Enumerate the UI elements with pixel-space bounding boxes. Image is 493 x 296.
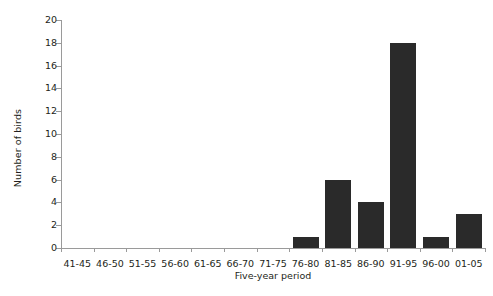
- x-tick-label: 96-00: [420, 258, 453, 270]
- bar: [358, 202, 384, 248]
- y-tick-label: 4: [51, 196, 57, 207]
- x-tick-mark: [289, 248, 290, 252]
- y-tick-label: 18: [45, 37, 57, 48]
- y-tick-label: 14: [45, 82, 57, 93]
- y-axis-line: [61, 20, 62, 248]
- y-tick-label: 2: [51, 219, 57, 230]
- x-tick-mark: [94, 248, 95, 252]
- y-tick-label: 16: [45, 60, 57, 71]
- x-axis-line: [61, 248, 485, 249]
- y-tick-label: 10: [45, 128, 57, 139]
- x-tick-mark: [322, 248, 323, 252]
- y-tick-label: 0: [51, 242, 57, 253]
- x-tick-label: 56-60: [159, 258, 192, 270]
- x-tick-mark: [420, 248, 421, 252]
- x-tick-mark: [452, 248, 453, 252]
- x-tick-label: 81-85: [322, 258, 355, 270]
- x-tick-mark: [485, 248, 486, 252]
- x-tick-mark: [224, 248, 225, 252]
- plot-area: 02468101214161820 41-4546-5051-5556-6061…: [61, 20, 485, 248]
- bar: [456, 214, 482, 248]
- x-tick-mark: [387, 248, 388, 252]
- bar-chart: Number of birds 02468101214161820 41-454…: [0, 0, 493, 296]
- x-tick-label: 41-45: [61, 258, 94, 270]
- y-tick-label: 8: [51, 151, 57, 162]
- x-tick-mark: [191, 248, 192, 252]
- x-tick-label: 76-80: [289, 258, 322, 270]
- x-tick-label: 71-75: [257, 258, 290, 270]
- x-tick-label: 51-55: [126, 258, 159, 270]
- x-tick-label: 66-70: [224, 258, 257, 270]
- x-tick-label: 91-95: [387, 258, 420, 270]
- bar: [293, 237, 319, 248]
- x-tick-label: 01-05: [452, 258, 485, 270]
- y-tick-label: 20: [45, 14, 57, 25]
- x-tick-label: 46-50: [94, 258, 127, 270]
- bar: [325, 180, 351, 248]
- x-tick-mark: [159, 248, 160, 252]
- x-tick-label: 86-90: [355, 258, 388, 270]
- x-tick-mark: [61, 248, 62, 252]
- x-tick-mark: [257, 248, 258, 252]
- y-axis-title: Number of birds: [8, 0, 26, 296]
- y-tick-label: 6: [51, 174, 57, 185]
- bar: [390, 43, 416, 248]
- x-tick-mark: [355, 248, 356, 252]
- x-axis-title: Five-year period: [61, 270, 485, 281]
- bar: [423, 237, 449, 248]
- y-tick-label: 12: [45, 105, 57, 116]
- x-tick-label: 61-65: [191, 258, 224, 270]
- x-tick-mark: [126, 248, 127, 252]
